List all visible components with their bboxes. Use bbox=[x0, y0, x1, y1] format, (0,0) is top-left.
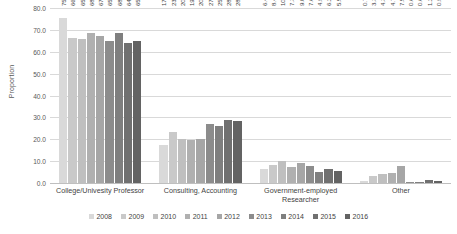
bar[interactable] bbox=[315, 172, 323, 183]
bar-slot: 8.46 bbox=[269, 8, 277, 183]
bar[interactable] bbox=[206, 124, 214, 184]
legend-item[interactable]: 2013 bbox=[249, 213, 272, 220]
bar[interactable] bbox=[378, 174, 386, 183]
bar-groups: 75.566.265.768.567.365.068.564.065.117.3… bbox=[50, 8, 451, 183]
x-axis-category-label: College/Univesity Professor bbox=[50, 186, 150, 204]
bar-value-label: 17.3 bbox=[160, 0, 167, 6]
bar-value-label: 6.2 bbox=[325, 0, 332, 6]
legend-item[interactable]: 2015 bbox=[313, 213, 336, 220]
legend-item[interactable]: 2011 bbox=[185, 213, 208, 220]
bar-slot: 28.4 bbox=[233, 8, 241, 183]
legend-label: 2016 bbox=[353, 213, 369, 220]
bar[interactable] bbox=[187, 140, 195, 183]
bar-value-label: 20.1 bbox=[178, 0, 185, 6]
bar[interactable] bbox=[196, 139, 204, 183]
bar[interactable] bbox=[260, 169, 268, 183]
bar-slot: 20.1 bbox=[178, 8, 186, 183]
bar[interactable] bbox=[68, 38, 76, 183]
legend-swatch-icon bbox=[313, 214, 318, 219]
bar-slot: 4.7 bbox=[388, 8, 396, 183]
bar-value-label: 6.47 bbox=[260, 0, 267, 6]
bar-value-label: 23.1 bbox=[169, 0, 176, 6]
bar[interactable] bbox=[96, 36, 104, 183]
legend-label: 2012 bbox=[224, 213, 240, 220]
bar[interactable] bbox=[425, 180, 433, 183]
bar[interactable] bbox=[369, 176, 377, 183]
bar-value-label: 3.31 bbox=[370, 0, 377, 6]
bar-value-label: 19.5 bbox=[188, 0, 195, 6]
bar[interactable] bbox=[169, 132, 177, 183]
plot-area: Proportion 0.010.020.030.040.050.060.070… bbox=[0, 0, 457, 200]
bar-value-label: 4.7 bbox=[388, 0, 395, 6]
bar-value-label: 7.55 bbox=[397, 0, 404, 6]
bar-group: 6.478.4610.17.389.037.64.96.25.5 bbox=[251, 8, 351, 183]
bar-slot: 4.34 bbox=[378, 8, 386, 183]
legend-swatch-icon bbox=[89, 214, 94, 219]
bar[interactable] bbox=[406, 182, 414, 183]
bar-slot: 10.1 bbox=[278, 8, 286, 183]
bar-slot: 66.2 bbox=[68, 8, 76, 183]
legend-swatch-icon bbox=[121, 214, 126, 219]
bar[interactable] bbox=[334, 171, 342, 183]
bar[interactable] bbox=[215, 126, 223, 183]
bar-value-label: 7.38 bbox=[288, 0, 295, 6]
bar-value-label: 67.3 bbox=[97, 0, 104, 6]
bar[interactable] bbox=[397, 166, 405, 183]
legend-swatch-icon bbox=[249, 214, 254, 219]
gridline bbox=[50, 183, 451, 184]
bar[interactable] bbox=[105, 41, 113, 183]
bar[interactable] bbox=[133, 41, 141, 183]
bar[interactable] bbox=[124, 43, 132, 183]
legend-item[interactable]: 2012 bbox=[217, 213, 240, 220]
y-axis-tick: 80.0 bbox=[33, 5, 46, 12]
bar[interactable] bbox=[233, 121, 241, 183]
legend-label: 2010 bbox=[161, 213, 177, 220]
legend: 200820092010201120122013201420152016 bbox=[0, 213, 457, 220]
bar[interactable] bbox=[388, 173, 396, 183]
bar-slot: 6.47 bbox=[260, 8, 268, 183]
bar-value-label: 10.1 bbox=[279, 0, 286, 6]
bar-slot: 17.3 bbox=[159, 8, 167, 183]
legend-item[interactable]: 2009 bbox=[121, 213, 144, 220]
y-axis-tick: 10.0 bbox=[33, 158, 46, 165]
bar[interactable] bbox=[115, 33, 123, 183]
y-axis-tick: 40.0 bbox=[33, 92, 46, 99]
bar[interactable] bbox=[415, 182, 423, 183]
bar[interactable] bbox=[224, 120, 232, 183]
bar[interactable] bbox=[287, 167, 295, 183]
bar-value-label: 8.46 bbox=[269, 0, 276, 6]
bar[interactable] bbox=[87, 33, 95, 183]
bar[interactable] bbox=[360, 181, 368, 183]
y-axis-tick: 0.0 bbox=[37, 180, 46, 187]
legend-swatch-icon bbox=[281, 214, 286, 219]
bar[interactable] bbox=[306, 166, 314, 183]
bar-slot: 27.2 bbox=[206, 8, 214, 183]
bar-slot: 25.9 bbox=[215, 8, 223, 183]
legend-label: 2015 bbox=[320, 213, 336, 220]
bar[interactable] bbox=[434, 181, 442, 183]
bar-slot: 65.0 bbox=[105, 8, 113, 183]
bar-slot: 7.38 bbox=[287, 8, 295, 183]
bar[interactable] bbox=[269, 165, 277, 184]
bar-slot: 3.31 bbox=[369, 8, 377, 183]
bar[interactable] bbox=[78, 39, 86, 183]
bar-slot: 4.9 bbox=[315, 8, 323, 183]
legend-label: 2009 bbox=[128, 213, 144, 220]
legend-item[interactable]: 2008 bbox=[89, 213, 112, 220]
bar-value-label: 0.6 bbox=[416, 0, 423, 6]
legend-item[interactable]: 2016 bbox=[345, 213, 368, 220]
bar[interactable] bbox=[297, 163, 305, 183]
bar-value-label: 20.1 bbox=[197, 0, 204, 6]
legend-item[interactable]: 2014 bbox=[281, 213, 304, 220]
bar[interactable] bbox=[59, 18, 67, 183]
bar-value-label: 28.4 bbox=[234, 0, 241, 6]
bar[interactable] bbox=[324, 169, 332, 183]
bar[interactable] bbox=[278, 161, 286, 183]
bar[interactable] bbox=[178, 139, 186, 183]
bar[interactable] bbox=[159, 145, 167, 183]
bar-slot: 67.3 bbox=[96, 8, 104, 183]
legend-swatch-icon bbox=[185, 214, 190, 219]
legend-item[interactable]: 2010 bbox=[153, 213, 176, 220]
y-axis-tick: 60.0 bbox=[33, 48, 46, 55]
bar-value-label: 9.03 bbox=[297, 0, 304, 6]
